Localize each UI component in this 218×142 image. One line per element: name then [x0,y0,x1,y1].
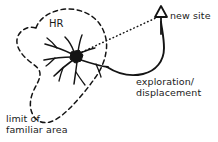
exploration-label-line1: exploration/ [136,76,194,87]
network-branch-upper-left [45,44,72,54]
exploration-path [107,22,164,75]
sight-line-dotted-path [82,17,158,52]
home-range-label: HR [49,18,64,30]
network-branch-up [65,37,74,52]
figure-canvas: HR new site exploration/displacement lim… [0,0,218,142]
new-site-label: new site [170,10,211,21]
limit-of-familiar-area-label: limit offamiliar area [6,113,68,135]
network-branch-left [44,57,72,60]
exploration-displacement-label: exploration/displacement [136,76,201,98]
limit-label-line1: limit of [6,113,40,124]
limit-label-line2: familiar area [6,124,68,135]
new-site-marker-triangle-icon [155,6,167,17]
network-branch-up-right [78,35,82,52]
network-branch-down-fork [76,72,85,85]
network-center-node [70,50,83,63]
exploration-label-line2: displacement [136,87,201,98]
